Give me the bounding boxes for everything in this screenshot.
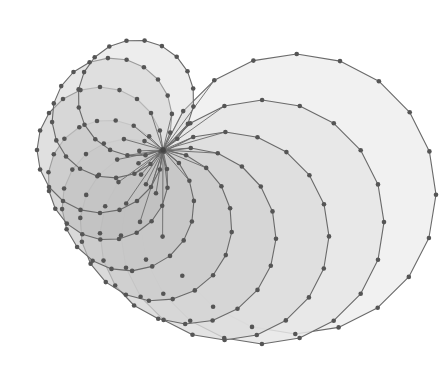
vertex-dot	[154, 191, 159, 196]
vertex-dot	[168, 254, 173, 259]
vertex-dot	[76, 87, 81, 92]
vertex-dot	[101, 258, 106, 263]
vertex-dot	[190, 219, 195, 224]
vertex-dot	[38, 128, 43, 133]
vertex-dot	[427, 236, 432, 241]
vertex-dot	[75, 245, 80, 250]
vertex-dot	[62, 186, 67, 191]
vertex-dot	[65, 221, 70, 226]
vertex-dot	[284, 318, 289, 323]
vertex-dot	[219, 184, 224, 189]
vertex-dot	[297, 336, 302, 341]
vertex-dot	[192, 199, 197, 204]
vertex-dot	[170, 297, 175, 302]
vertex-dot	[260, 98, 265, 103]
vertex-dot	[136, 161, 141, 166]
vertex-dot	[54, 138, 59, 143]
vertex-dot	[322, 266, 327, 271]
vertex-dot	[332, 121, 337, 126]
vertex-dot	[211, 273, 216, 278]
vertex-dot	[187, 179, 192, 184]
vertex-dot	[117, 237, 122, 242]
vertex-dot	[180, 273, 185, 278]
vertex-dot	[284, 150, 289, 155]
vertex-dot	[77, 105, 82, 110]
vertex-dot	[156, 317, 161, 322]
vertex-dot	[113, 283, 118, 288]
vertex-dot	[124, 39, 129, 44]
vertex-dot	[336, 325, 341, 330]
vertex-dot	[250, 325, 255, 330]
vertex-dot	[95, 174, 100, 179]
vertex-dot	[212, 78, 217, 83]
vertex-dot	[80, 232, 85, 237]
vertex-dot	[150, 264, 155, 269]
vertex-dot	[235, 307, 240, 312]
vertex-dot	[71, 70, 76, 75]
vertex-dot	[165, 185, 170, 190]
vertex-dot	[177, 161, 182, 166]
vertex-dot	[139, 172, 144, 177]
vertex-dot	[375, 305, 380, 310]
vertex-dot	[165, 93, 170, 98]
vertex-dot	[434, 192, 439, 197]
vertex-dot	[138, 220, 143, 225]
vertex-dot	[52, 152, 57, 157]
vertex-dot	[53, 206, 58, 211]
shared-vertex	[160, 147, 165, 152]
vertex-dot	[160, 234, 165, 239]
vertex-dot	[427, 149, 432, 154]
vertex-dot	[78, 208, 83, 213]
vertex-dot	[135, 199, 140, 204]
vertex-dot	[222, 104, 227, 109]
vertex-dot	[80, 239, 85, 244]
vertex-dot	[107, 44, 112, 49]
vertex-dot	[407, 110, 412, 115]
vertex-dot	[147, 298, 152, 303]
vertex-dot	[376, 258, 381, 263]
vertex-dot	[138, 295, 143, 300]
vertex-dot	[260, 342, 265, 347]
vertex-dot	[251, 58, 256, 63]
vertex-dot	[98, 237, 103, 242]
vertex-dot	[87, 60, 92, 65]
vertex-dot	[175, 136, 180, 141]
vertex-dot	[377, 79, 382, 84]
vertex-dot	[82, 122, 87, 127]
vertex-dot	[255, 135, 260, 140]
vertex-dot	[185, 69, 190, 74]
vertex-dot	[255, 288, 260, 293]
vertex-dot	[174, 54, 179, 59]
vertex-dot	[130, 269, 135, 274]
vertex-dot	[181, 109, 186, 114]
vertex-dot	[191, 135, 196, 140]
vertex-dot	[144, 182, 149, 187]
vertex-dot	[269, 264, 274, 269]
vertex-dot	[132, 303, 137, 308]
vertex-dot	[224, 253, 229, 258]
vertex-dot	[142, 65, 147, 70]
vertex-dot	[181, 238, 186, 243]
vertex-dot	[149, 219, 154, 224]
vertex-dot	[358, 292, 363, 297]
vertex-dot	[47, 189, 52, 194]
vertex-dot	[135, 97, 140, 102]
vertex-dot	[103, 204, 108, 209]
vertex-dot	[143, 153, 148, 158]
spiral-polygon-diagram	[0, 0, 443, 381]
vertex-dot	[124, 58, 129, 63]
vertex-dot	[52, 101, 57, 106]
vertex-dot	[327, 234, 332, 239]
vertex-dot	[77, 125, 82, 130]
vertex-dot	[82, 70, 87, 75]
vertex-dot	[124, 293, 129, 298]
vertex-dot	[170, 112, 175, 117]
vertex-dot	[148, 162, 153, 167]
vertex-dot	[104, 280, 109, 285]
vertex-dot	[229, 230, 234, 235]
vertex-dot	[98, 85, 103, 90]
vertex-dot	[35, 148, 40, 153]
vertex-dot	[92, 55, 97, 60]
polygon-layer	[37, 41, 436, 344]
vertex-dot	[115, 157, 120, 162]
